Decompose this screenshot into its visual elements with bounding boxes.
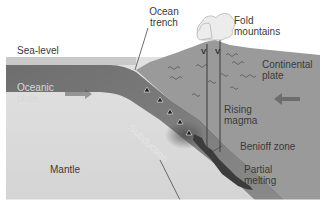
ash-cloud-icon — [197, 14, 235, 41]
sea-layer — [6, 57, 136, 65]
label-sea-level: Sea-level — [17, 45, 59, 56]
label-oceanic-plate-line2: plate — [17, 93, 54, 104]
label-rising-magma-line2: magma — [224, 115, 257, 126]
label-partial-melting-line1: Partial — [244, 164, 276, 175]
label-partial-melting-line2: melting — [244, 175, 276, 186]
label-fold-mountains: Fold mountains — [234, 15, 280, 37]
label-mantle: Mantle — [50, 164, 80, 175]
label-oceanic-plate: Oceanic plate — [17, 82, 54, 104]
label-fold-mountains-line2: mountains — [234, 26, 280, 37]
label-continental-plate-line2: plate — [262, 70, 313, 81]
label-rising-magma: Rising magma — [224, 104, 257, 126]
label-ocean-trench: Ocean trench — [144, 6, 184, 28]
label-partial-melting: Partial melting — [244, 164, 276, 186]
label-ocean-trench-line2: trench — [144, 17, 184, 28]
label-continental-plate-line1: Continental — [262, 59, 313, 70]
label-rising-magma-line1: Rising — [224, 104, 257, 115]
label-continental-plate: Continental plate — [262, 59, 313, 81]
label-ocean-trench-line1: Ocean — [144, 6, 184, 17]
label-benioff-zone: Benioff zone — [240, 141, 295, 152]
svg-text:V: V — [201, 47, 207, 56]
label-fold-mountains-line1: Fold — [234, 15, 280, 26]
label-oceanic-plate-line1: Oceanic — [17, 82, 54, 93]
subduction-diagram: V V Sea-level Ocean trench Fold mountain… — [0, 0, 326, 217]
svg-text:V: V — [215, 47, 221, 56]
